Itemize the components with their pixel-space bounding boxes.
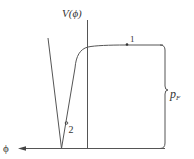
y-axis-label: V(ϕ) [62,7,82,20]
potential-curve [48,38,163,149]
point-1-label: 1 [130,34,135,44]
potential-diagram: 1 2 pF V(ϕ) ϕ [0,0,194,159]
brace-icon [160,45,168,149]
brace-label-sub: F [175,94,181,102]
point-1-marker [126,43,129,46]
brace-label-main: p [169,87,176,101]
point-2-label: 2 [69,124,74,135]
x-axis-label: ϕ [3,142,9,154]
brace-label: pF [169,87,181,102]
phi-axis-arrowhead-icon [18,146,26,150]
point-2-marker [65,122,68,125]
